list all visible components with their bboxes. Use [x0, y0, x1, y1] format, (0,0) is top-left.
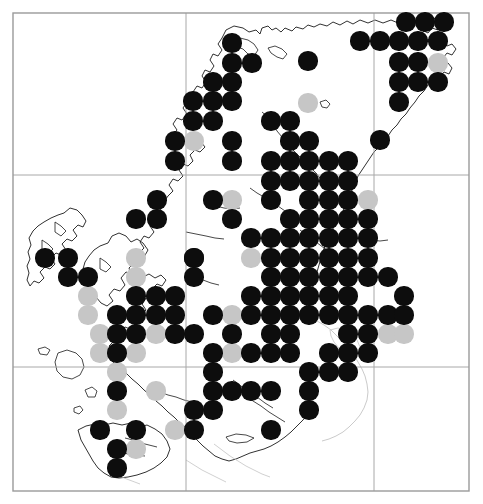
record-dot-recent [338, 171, 357, 190]
record-dot-old [126, 343, 145, 362]
record-dot-recent [389, 72, 408, 91]
record-dot-recent [299, 228, 318, 247]
record-dot-recent [428, 72, 447, 91]
record-dot-recent [203, 343, 222, 362]
record-dot-recent [126, 209, 145, 228]
record-dot-recent [261, 171, 280, 190]
record-dot-recent [126, 420, 145, 439]
record-dot-old [358, 190, 377, 209]
record-dot-recent [428, 31, 447, 50]
record-dot-recent [184, 420, 203, 439]
record-dot-recent [146, 286, 165, 305]
record-dot-recent [299, 286, 318, 305]
record-dot-recent [126, 305, 145, 324]
record-dot-recent [261, 324, 280, 343]
record-dot-recent [280, 228, 299, 247]
record-dot-recent [146, 305, 165, 324]
record-dot-recent [319, 286, 338, 305]
record-dot-recent [203, 400, 222, 419]
record-dot-recent [389, 52, 408, 71]
record-dot-recent [184, 248, 203, 267]
record-dot-recent [319, 305, 338, 324]
record-dot-recent [299, 131, 318, 150]
record-dot-recent [222, 131, 241, 150]
record-dot-recent [147, 209, 166, 228]
record-dot-recent [241, 305, 260, 324]
record-dot-old [428, 53, 447, 72]
record-dot-recent [35, 248, 54, 267]
record-dot-recent [280, 171, 299, 190]
record-dot-recent [222, 209, 241, 228]
record-dot-recent [165, 324, 184, 343]
record-dot-layer [0, 0, 483, 504]
record-dot-recent [261, 111, 280, 130]
record-dot-recent [222, 91, 241, 110]
record-dot-recent [280, 267, 299, 286]
record-dot-recent [319, 171, 338, 190]
record-dot-recent [241, 381, 260, 400]
record-dot-recent [222, 324, 241, 343]
record-dot-recent [396, 12, 415, 31]
record-dot-recent [338, 248, 357, 267]
record-dot-recent [147, 190, 166, 209]
record-dot-recent [338, 190, 357, 209]
record-dot-recent [299, 305, 318, 324]
record-dot-recent [280, 324, 299, 343]
record-dot-recent [280, 209, 299, 228]
record-dot-recent [338, 286, 357, 305]
record-dot-recent [280, 305, 299, 324]
record-dot-recent [358, 209, 377, 228]
record-dot-recent [408, 31, 427, 50]
record-dot-recent [241, 286, 260, 305]
record-dot-recent [358, 324, 377, 343]
record-dot-recent [222, 53, 241, 72]
record-dot-recent [261, 248, 280, 267]
record-dot-old [78, 286, 97, 305]
record-dot-old [146, 324, 165, 343]
record-dot-recent [165, 131, 184, 150]
record-dot-recent [358, 267, 377, 286]
record-dot-recent [358, 228, 377, 247]
record-dot-recent [203, 362, 222, 381]
record-dot-recent [299, 190, 318, 209]
record-dot-recent [222, 33, 241, 52]
record-dot-recent [338, 362, 357, 381]
record-dot-recent [338, 324, 357, 343]
record-dot-recent [261, 228, 280, 247]
record-dot-recent [107, 343, 126, 362]
record-dot-recent [183, 111, 202, 130]
record-dot-old [165, 420, 184, 439]
record-dot-recent [370, 31, 389, 50]
record-dot-recent [107, 305, 126, 324]
record-dot-recent [299, 362, 318, 381]
record-dot-old [146, 381, 165, 400]
record-dot-recent [338, 305, 357, 324]
record-dot-recent [299, 209, 318, 228]
record-dot-recent [338, 228, 357, 247]
record-dot-recent [319, 228, 338, 247]
record-dot-recent [261, 151, 280, 170]
record-dot-old [107, 400, 126, 419]
record-dot-recent [261, 420, 280, 439]
record-dot-recent [241, 228, 260, 247]
record-dot-recent [408, 52, 427, 71]
record-dot-recent [299, 151, 318, 170]
record-dot-recent [261, 343, 280, 362]
record-dot-recent [165, 305, 184, 324]
record-dot-recent [389, 92, 408, 111]
record-dot-recent [203, 190, 222, 209]
record-dot-recent [338, 343, 357, 362]
record-dot-old [222, 343, 241, 362]
record-dot-recent [280, 343, 299, 362]
record-dot-recent [184, 324, 203, 343]
record-dot-recent [280, 151, 299, 170]
record-dot-recent [434, 12, 453, 31]
record-dot-old [126, 439, 145, 458]
record-dot-recent [261, 286, 280, 305]
record-dot-recent [394, 305, 413, 324]
record-dot-old [222, 305, 241, 324]
record-dot-recent [203, 72, 222, 91]
record-dot-recent [184, 267, 203, 286]
record-dot-recent [261, 190, 280, 209]
record-dot-recent [165, 286, 184, 305]
